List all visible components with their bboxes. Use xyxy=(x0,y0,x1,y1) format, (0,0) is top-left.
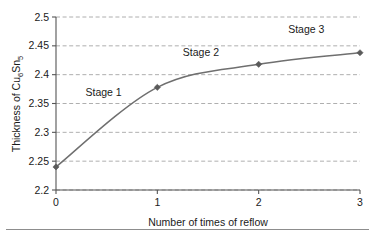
annotation-stage-3: Stage 3 xyxy=(288,23,324,35)
y-tick-label-5: 2.45 xyxy=(29,39,50,51)
y-tick-label-1: 2.25 xyxy=(29,155,50,167)
annotation-stage-2: Stage 2 xyxy=(183,46,219,58)
line-chart: 2.22.252.32.352.42.452.5 0123 Stage 1Sta… xyxy=(0,0,375,237)
x-tick-label-0: 0 xyxy=(53,196,59,208)
figure-container: 2.22.252.32.352.42.452.5 0123 Stage 1Sta… xyxy=(0,0,375,237)
x-tick-label-2: 2 xyxy=(256,196,262,208)
bottom-divider-rule xyxy=(6,229,369,230)
y-tick-label-6: 2.5 xyxy=(34,11,49,23)
x-tick-label-3: 3 xyxy=(357,196,363,208)
x-tick-label-1: 1 xyxy=(154,196,160,208)
y-tick-label-0: 2.2 xyxy=(34,184,49,196)
y-tick-label-4: 2.4 xyxy=(34,68,49,80)
y-tick-label-2: 2.3 xyxy=(34,126,49,138)
annotation-stage-1: Stage 1 xyxy=(86,86,122,98)
x-axis-title: Number of times of reflow xyxy=(148,216,268,228)
y-tick-label-3: 2.35 xyxy=(29,97,50,109)
